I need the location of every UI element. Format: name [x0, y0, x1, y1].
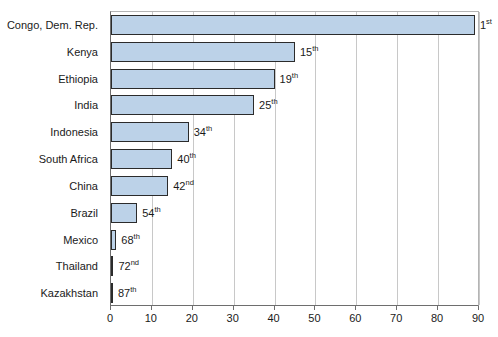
x-axis-tick-label: 90	[463, 312, 493, 324]
x-axis-tick	[233, 306, 234, 310]
y-axis-label: Kazakhstan	[41, 280, 98, 307]
y-axis-label: Brazil	[70, 200, 98, 227]
y-axis-label: Indonesia	[50, 119, 98, 146]
bar-value-label: 1st	[480, 15, 492, 35]
y-axis-label: India	[74, 92, 98, 119]
bar-row: 25th	[111, 92, 478, 119]
bar-value-label: 72nd	[118, 256, 139, 276]
x-axis-tick-label: 70	[381, 312, 411, 324]
bar-row: 87th	[111, 280, 478, 307]
bar-value-label: 42nd	[173, 176, 194, 196]
x-axis-tick-label: 60	[340, 312, 370, 324]
bar-row: 1st	[111, 12, 478, 39]
y-axis-label: Congo, Dem. Rep.	[7, 12, 98, 39]
y-axis-label: South Africa	[39, 146, 98, 173]
bar-row: 40th	[111, 146, 478, 173]
bar	[111, 149, 172, 169]
x-axis-tick	[314, 306, 315, 310]
bar	[111, 230, 116, 250]
x-axis-tick-label: 80	[422, 312, 452, 324]
x-axis: 0102030405060708090	[110, 306, 480, 336]
x-axis-tick-label: 40	[259, 312, 289, 324]
plot-area: 1st15th19th25th34th40th42nd54th68th72nd8…	[110, 11, 479, 306]
x-axis-tick	[396, 306, 397, 310]
x-axis-tick	[478, 306, 479, 310]
x-axis-tick	[274, 306, 275, 310]
bar-value-label: 68th	[121, 230, 140, 250]
y-axis-label: Mexico	[63, 227, 98, 254]
x-axis-tick-label: 50	[299, 312, 329, 324]
x-axis-tick-label: 30	[218, 312, 248, 324]
bar-row: 42nd	[111, 173, 478, 200]
bar-row: 34th	[111, 119, 478, 146]
bar-value-label: 34th	[194, 122, 213, 142]
bar	[111, 283, 113, 303]
bar	[111, 42, 295, 62]
bar-row: 68th	[111, 227, 478, 254]
x-axis-tick	[355, 306, 356, 310]
bar-value-label: 25th	[259, 95, 278, 115]
y-axis-label: China	[69, 173, 98, 200]
bar-value-label: 87th	[118, 283, 137, 303]
bar-row: 15th	[111, 39, 478, 66]
x-axis-tick	[110, 306, 111, 310]
gridline	[479, 12, 480, 305]
bar-chart: Congo, Dem. Rep.KenyaEthiopiaIndiaIndone…	[0, 0, 498, 337]
y-axis-label: Thailand	[56, 253, 98, 280]
x-axis-tick	[437, 306, 438, 310]
bar-value-label: 54th	[142, 203, 161, 223]
bar	[111, 95, 254, 115]
y-axis-label: Ethiopia	[58, 66, 98, 93]
bar	[111, 15, 475, 35]
bar-row: 54th	[111, 200, 478, 227]
bar-row: 72nd	[111, 253, 478, 280]
bar-value-label: 15th	[300, 42, 319, 62]
bar-value-label: 40th	[177, 149, 196, 169]
x-axis-tick	[151, 306, 152, 310]
bar	[111, 176, 168, 196]
x-axis-tick-label: 0	[95, 312, 125, 324]
bar	[111, 256, 113, 276]
y-axis-category-labels: Congo, Dem. Rep.KenyaEthiopiaIndiaIndone…	[0, 12, 104, 305]
bar-value-label: 19th	[280, 69, 299, 89]
bar	[111, 203, 137, 223]
bar	[111, 122, 189, 142]
x-axis-tick	[192, 306, 193, 310]
bar	[111, 69, 275, 89]
bar-series: 1st15th19th25th34th40th42nd54th68th72nd8…	[111, 12, 478, 305]
chart-title-cropped	[0, 0, 498, 6]
x-axis-tick-label: 20	[177, 312, 207, 324]
bar-row: 19th	[111, 66, 478, 93]
y-axis-label: Kenya	[67, 39, 98, 66]
x-axis-tick-label: 10	[136, 312, 166, 324]
